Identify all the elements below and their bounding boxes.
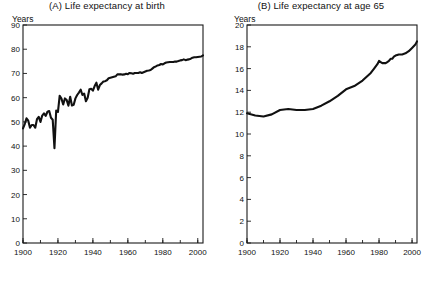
panel-b-plot: 0246810121416182019001920194019601980200… bbox=[214, 0, 428, 281]
y-tick-label: 70 bbox=[11, 69, 20, 78]
series-line bbox=[247, 41, 417, 116]
y-tick-label: 18 bbox=[235, 43, 244, 52]
y-tick-label: 0 bbox=[240, 239, 245, 248]
figure-life-expectancy: (A) Life expectancy at birth Years 01020… bbox=[0, 0, 428, 281]
y-tick-label: 16 bbox=[235, 65, 244, 74]
y-tick-label: 20 bbox=[235, 21, 244, 30]
y-tick-label: 60 bbox=[11, 94, 20, 103]
y-tick-label: 14 bbox=[235, 86, 244, 95]
y-tick-label: 4 bbox=[240, 195, 245, 204]
x-tick-label: 1960 bbox=[337, 248, 355, 257]
x-tick-label: 1980 bbox=[154, 248, 172, 257]
x-tick-label: 2000 bbox=[403, 248, 421, 257]
y-tick-label: 10 bbox=[11, 215, 20, 224]
panel-a-plot: 0102030405060708090190019201940196019802… bbox=[0, 0, 214, 281]
y-tick-label: 80 bbox=[11, 45, 20, 54]
x-tick-label: 1960 bbox=[119, 248, 137, 257]
chart-panel-a: (A) Life expectancy at birth Years 01020… bbox=[0, 0, 214, 281]
y-tick-label: 2 bbox=[240, 217, 245, 226]
x-tick-label: 1920 bbox=[271, 248, 289, 257]
y-tick-label: 0 bbox=[16, 239, 21, 248]
x-tick-label: 1980 bbox=[370, 248, 388, 257]
x-tick-label: 2000 bbox=[189, 248, 207, 257]
y-tick-label: 12 bbox=[235, 108, 244, 117]
series-line bbox=[23, 55, 203, 148]
x-tick-label: 1900 bbox=[238, 248, 256, 257]
x-tick-label: 1940 bbox=[84, 248, 102, 257]
x-tick-label: 1900 bbox=[14, 248, 32, 257]
chart-panel-b: (B) Life expectancy at age 65 Years 0246… bbox=[214, 0, 428, 281]
y-tick-label: 90 bbox=[11, 21, 20, 30]
y-tick-label: 30 bbox=[11, 166, 20, 175]
y-tick-label: 40 bbox=[11, 142, 20, 151]
y-tick-label: 10 bbox=[235, 130, 244, 139]
x-tick-label: 1940 bbox=[304, 248, 322, 257]
y-tick-label: 8 bbox=[240, 152, 245, 161]
y-tick-label: 6 bbox=[240, 174, 245, 183]
y-tick-label: 20 bbox=[11, 191, 20, 200]
x-tick-label: 1920 bbox=[49, 248, 67, 257]
y-tick-label: 50 bbox=[11, 118, 20, 127]
